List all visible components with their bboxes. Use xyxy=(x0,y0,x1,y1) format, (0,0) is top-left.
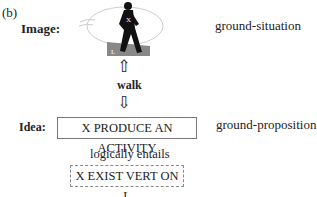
svg-text:X: X xyxy=(126,16,131,24)
ground-situation-label: ground-situation xyxy=(215,18,301,34)
panel-label: (b) xyxy=(2,5,17,21)
down-arrow-icon: ⇩ xyxy=(117,94,131,111)
image-label: Image: xyxy=(21,21,60,37)
relation-label: logically entails xyxy=(90,147,170,162)
idea-label: Idea: xyxy=(19,120,46,135)
entailed-box: X EXIST VERT ON L xyxy=(70,165,184,187)
eye-walker-icon: L X xyxy=(75,0,165,58)
up-arrow-icon: ⇧ xyxy=(117,58,131,75)
proposition-box: X PRODUCE AN ACTIVITY xyxy=(57,117,197,139)
ground-proposition-label: ground-proposition xyxy=(216,117,316,133)
ground-letter: L xyxy=(111,48,115,56)
walk-word: walk xyxy=(117,78,142,93)
